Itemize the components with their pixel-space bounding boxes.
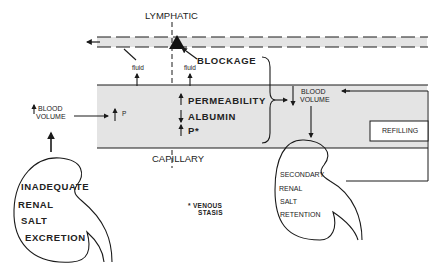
right-kidney-line3: SALT — [280, 198, 297, 206]
lymph-pointer — [124, 49, 136, 60]
left-kidney-line3: SALT — [21, 216, 48, 227]
right-kidney-line2: RENAL — [279, 185, 302, 193]
left-blood-volume-label: BLOOD VOLUME — [38, 105, 66, 121]
asterisk-icon: * — [188, 202, 191, 209]
lymphatic-label: LYMPHATIC — [145, 11, 198, 22]
venous-pressure-label: P* — [188, 126, 199, 137]
footnote: * VENOUS STASIS — [188, 202, 223, 217]
lymphatic-vessel — [97, 37, 428, 47]
right-blood-volume-line1: BLOOD — [301, 88, 330, 96]
right-blood-volume-line2: VOLUME — [300, 96, 330, 104]
footnote-line1: VENOUS — [193, 202, 222, 209]
right-kidney-line1: SECONDARY — [280, 171, 324, 179]
right-kidney-line4: RETENTION — [280, 211, 320, 219]
blockage-label: BLOCKAGE — [197, 56, 256, 67]
left-kidney-line1: INADEQUATE — [21, 182, 89, 193]
pressure-label: P — [122, 110, 126, 117]
capillary-label: CAPILLARY — [152, 154, 204, 165]
fluid-label-left: fluid — [132, 64, 144, 71]
fluid-label-right: fluid — [184, 64, 196, 71]
right-blood-volume-label: BLOOD VOLUME — [300, 88, 330, 104]
left-blood-volume-line1: BLOOD — [38, 105, 66, 113]
left-kidney-line4: EXCRETION — [25, 233, 86, 244]
refilling-label: REFILLING — [382, 127, 418, 135]
footnote-line2: STASIS — [198, 209, 223, 216]
left-blood-volume-line2: VOLUME — [36, 113, 66, 121]
left-kidney-line2: RENAL — [18, 200, 54, 211]
albumin-label: ALBUMIN — [188, 112, 236, 123]
permeability-label: PERMEABILITY — [188, 96, 266, 107]
blockage-pointer — [182, 48, 197, 59]
